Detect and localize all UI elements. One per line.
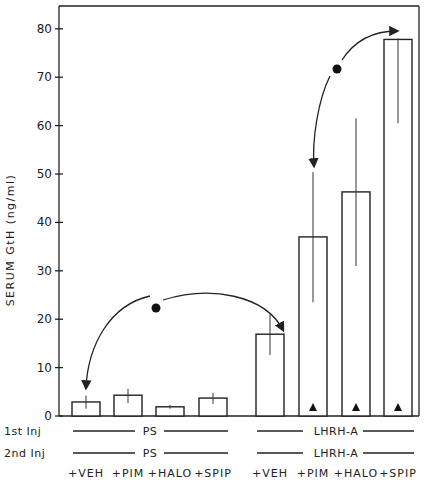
category-labels: +VEH+PIM+HALO+SPIP+VEH+PIM+HALO+SPIP bbox=[68, 467, 417, 480]
significance-dot-icon bbox=[152, 304, 161, 313]
category-label: +VEH bbox=[252, 467, 288, 480]
group2-first-inj: LHRH-A bbox=[314, 425, 359, 438]
first-inj-label: 1st Inj bbox=[4, 425, 41, 438]
bar-group bbox=[299, 172, 327, 416]
category-label: +PIM bbox=[297, 467, 330, 480]
category-label: +PIM bbox=[112, 467, 145, 480]
bar-group bbox=[342, 118, 370, 416]
category-label: +HALO bbox=[334, 467, 378, 480]
injection-rows: 1st Inj 2nd Inj PS PS LHRH-A LHRH-A bbox=[4, 425, 414, 460]
second-inj-label: 2nd Inj bbox=[4, 447, 45, 460]
category-label: +HALO bbox=[148, 467, 192, 480]
group1-first-inj: PS bbox=[143, 425, 158, 438]
category-label: +VEH bbox=[68, 467, 104, 480]
group1-second-inj: PS bbox=[143, 447, 158, 460]
category-label: +SPIP bbox=[379, 467, 417, 480]
bar-chart: 01020304050607080 SERUM GtH (ng/ml) 1st … bbox=[0, 0, 431, 483]
bar-group bbox=[384, 38, 412, 416]
bar-group bbox=[156, 405, 184, 416]
bar-group bbox=[199, 393, 227, 416]
category-label: +SPIP bbox=[194, 467, 232, 480]
y-tick-label: 10 bbox=[37, 361, 52, 375]
bar-group bbox=[72, 396, 100, 416]
group2-second-inj: LHRH-A bbox=[314, 447, 359, 460]
annotation-ps-vs-lhrh bbox=[86, 293, 283, 388]
y-tick-label: 50 bbox=[37, 167, 52, 181]
y-tick-label: 30 bbox=[37, 264, 52, 278]
y-tick-label: 80 bbox=[37, 22, 52, 36]
significance-dot-icon bbox=[333, 65, 342, 74]
y-tick-label: 0 bbox=[44, 409, 52, 423]
y-tick-label: 60 bbox=[37, 119, 52, 133]
y-tick-label: 70 bbox=[37, 70, 52, 84]
bar-group bbox=[114, 389, 142, 416]
y-tick-label: 20 bbox=[37, 312, 52, 326]
bar-group bbox=[256, 314, 284, 416]
bars bbox=[72, 38, 412, 416]
y-tick-label: 40 bbox=[37, 215, 52, 229]
y-axis-label: SERUM GtH (ng/ml) bbox=[4, 174, 17, 307]
